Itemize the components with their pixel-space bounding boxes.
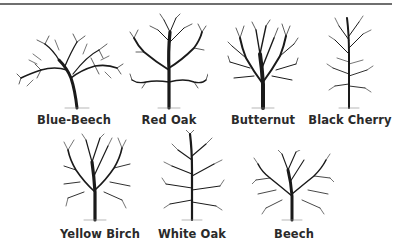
black-cherry-tree-illustration bbox=[325, 14, 375, 110]
tree-label: Butternut bbox=[231, 113, 295, 127]
tree-label: Blue-Beech bbox=[37, 113, 111, 127]
tree-label: Red Oak bbox=[142, 113, 197, 127]
tree-label: White Oak bbox=[158, 227, 226, 241]
red-oak-tree-illustration bbox=[128, 12, 208, 110]
blue-beech-tree-illustration bbox=[15, 30, 125, 110]
tree-label: Beech bbox=[274, 227, 314, 241]
beech-tree-illustration bbox=[252, 150, 334, 222]
tree-label: Yellow Birch bbox=[60, 227, 140, 241]
tree-label: Black Cherry bbox=[308, 113, 391, 127]
top-rule bbox=[0, 3, 392, 5]
yellow-birch-tree-illustration bbox=[60, 132, 134, 222]
white-oak-tree-illustration bbox=[160, 130, 226, 222]
butternut-tree-illustration bbox=[226, 18, 300, 110]
